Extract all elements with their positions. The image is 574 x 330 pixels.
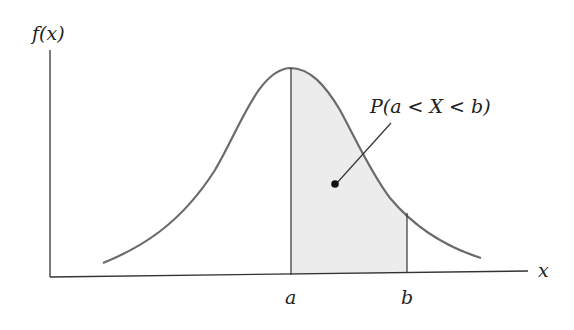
- x-axis-label: x: [538, 259, 549, 281]
- tick-label-a: a: [285, 286, 296, 308]
- probability-label: P(a < X < b): [369, 95, 491, 117]
- x-axis: [50, 271, 528, 277]
- density-diagram: f(x) x a b P(a < X < b): [0, 0, 574, 330]
- tick-label-b: b: [401, 286, 413, 308]
- annotation-dot: [331, 180, 339, 188]
- y-axis-label: f(x): [30, 22, 65, 44]
